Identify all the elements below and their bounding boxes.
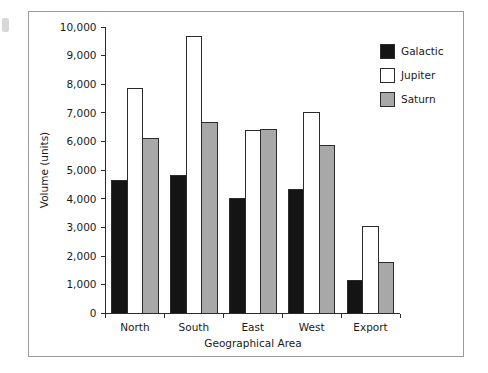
bar-saturn-north [143,139,159,314]
bar-jupiter-south [186,36,202,313]
y-axis-tick-labels: 01,0002,0003,0004,0005,0006,0007,0008,00… [60,21,97,320]
bar-galactic-west [288,189,304,313]
bar-galactic-north [112,180,128,313]
y-tick-label: 9,000 [66,49,96,61]
y-tick-label: 8,000 [66,78,96,90]
bar-series-group [112,36,394,313]
x-axis-category-label: East [241,321,264,333]
x-axis-category-labels: NorthSouthEastWestExport [120,321,387,333]
y-tick-label: 7,000 [66,107,96,119]
bar-jupiter-east [245,130,261,313]
bar-galactic-export [347,281,363,314]
bar-galactic-south [171,175,187,313]
x-axis-tick-marks [106,314,401,319]
x-axis-category-label: North [120,321,149,333]
page-edge-mark [2,18,9,32]
legend-label-jupiter: Jupiter [400,69,436,81]
y-tick-label: 5,000 [66,164,96,176]
chart-legend: GalacticJupiterSaturn [380,44,444,106]
y-axis-title: Volume (units) [38,132,50,208]
bar-jupiter-export [363,227,379,314]
legend-swatch-saturn [380,92,394,106]
y-tick-label: 4,000 [66,193,96,205]
bar-jupiter-west [304,113,320,314]
bar-jupiter-north [127,89,143,314]
legend-label-saturn: Saturn [401,93,436,105]
y-tick-label: 10,000 [60,21,97,33]
y-tick-label: 3,000 [66,221,96,233]
y-tick-label: 1,000 [66,278,96,290]
x-axis-category-label: West [299,321,325,333]
bar-chart-canvas: 01,0002,0003,0004,0005,0006,0007,0008,00… [28,11,464,357]
bar-saturn-export [378,263,394,314]
x-axis-category-label: Export [353,321,387,333]
chart-figure: 01,0002,0003,0004,0005,0006,0007,0008,00… [0,0,488,373]
y-tick-label: 0 [90,307,97,319]
legend-swatch-jupiter [380,68,394,82]
y-axis-tick-marks [101,27,106,314]
bar-galactic-east [230,198,246,313]
y-tick-label: 6,000 [66,135,96,147]
x-axis: NorthSouthEastWestExport Geographical Ar… [106,314,401,350]
y-tick-label: 2,000 [66,250,96,262]
x-axis-category-label: South [179,321,210,333]
bar-saturn-west [319,145,335,313]
legend-swatch-galactic [380,44,394,58]
bar-saturn-south [202,123,218,314]
y-axis: 01,0002,0003,0004,0005,0006,0007,0008,00… [38,21,106,320]
legend-label-galactic: Galactic [401,45,444,57]
x-axis-title: Geographical Area [204,337,301,349]
bar-saturn-east [261,129,277,313]
